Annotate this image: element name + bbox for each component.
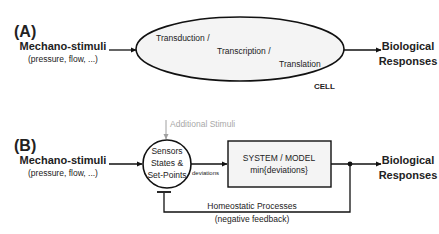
sensors-line-1: Sensors — [151, 146, 182, 156]
panel-a-output-line-1: Biological — [382, 40, 435, 52]
panel-b-label: (B) — [14, 137, 36, 154]
panel-b-input-title: Mechano-stimuli — [20, 154, 107, 166]
feedback-line-2: (negative feedback) — [215, 214, 290, 224]
panel-a-label: (A) — [14, 23, 36, 40]
system-line-1: SYSTEM / MODEL — [243, 153, 316, 163]
feedback-line-1: Homeostatic Processes — [207, 201, 296, 211]
deviations-label: deviations — [192, 170, 219, 176]
homeostasis-diagram: (A) Mechano-stimuli (pressure, flow, ...… — [0, 0, 439, 234]
panel-a-output-line-2: Responses — [379, 55, 438, 67]
system-line-2: min{deviations} — [250, 165, 308, 175]
panel-a-input-title: Mechano-stimuli — [20, 40, 107, 52]
cell-line-3: Translation — [279, 59, 321, 69]
sensors-line-3: Set-Points — [147, 170, 186, 180]
panel-b-input-subtitle: (pressure, flow, ...) — [28, 168, 98, 178]
cell-line-1: Transduction / — [156, 33, 210, 43]
panel-b: (B) Mechano-stimuli (pressure, flow, ...… — [14, 119, 437, 224]
system-model-box — [228, 141, 331, 187]
cell-caption: CELL — [314, 82, 335, 91]
additional-stimuli-label: Additional Stimuli — [170, 119, 235, 129]
panel-b-output-line-2: Responses — [379, 169, 438, 181]
cell-line-2: Transcription / — [217, 46, 271, 56]
panel-a: (A) Mechano-stimuli (pressure, flow, ...… — [14, 17, 437, 91]
panel-a-input-subtitle: (pressure, flow, ...) — [28, 54, 98, 64]
panel-b-output-line-1: Biological — [382, 154, 435, 166]
sensors-line-2: States & — [151, 158, 183, 168]
